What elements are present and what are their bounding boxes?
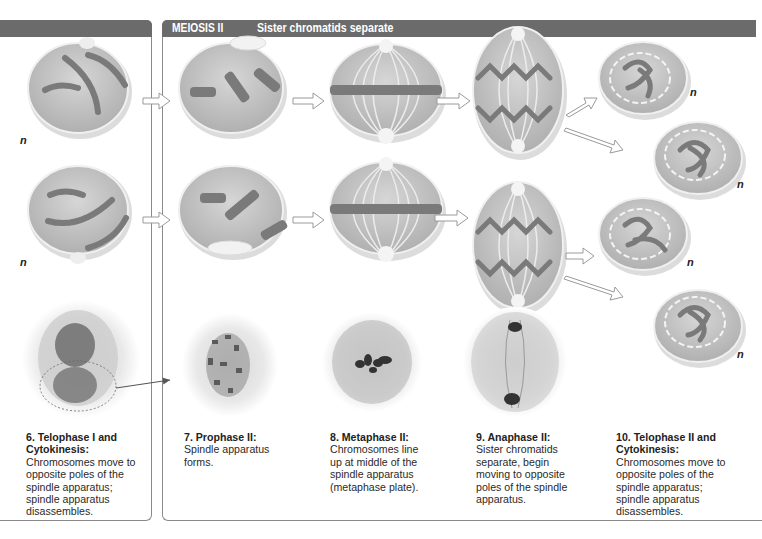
stage-caption-7: 7. Prophase II: Spindle apparatus forms. (184, 431, 284, 468)
arrow-icon (564, 128, 623, 153)
anaphase-ii-cell-top (473, 27, 567, 160)
stage-title: 6. Telophase I and Cytokinesis: (26, 431, 146, 456)
daughter-cell-1 (599, 42, 691, 120)
arrow-icon (143, 93, 170, 109)
stage-title: 8. Metaphase II: (330, 431, 430, 443)
arrow-icon (293, 93, 324, 109)
arrow-icon (143, 212, 170, 228)
stage-title: 7. Prophase II: (184, 431, 284, 443)
stage-description: Spindle apparatus forms. (184, 443, 269, 467)
micrograph-telophase-i (22, 300, 140, 418)
ploidy-label: n (20, 256, 27, 268)
micrograph-anaphase-ii (463, 307, 567, 417)
prophase-ii-cell-bottom (179, 166, 289, 260)
ploidy-label: n (20, 134, 27, 146)
ploidy-label: n (737, 348, 744, 360)
stage-description: Chromosomes line up at middle of the spi… (330, 443, 418, 492)
ploidy-label: n (737, 178, 744, 190)
ploidy-label: n (687, 256, 694, 268)
stage-title: 10. Telophase II and Cytokinesis: (616, 431, 736, 456)
stage-title: 9. Anaphase II: (476, 431, 580, 443)
stage-caption-9: 9. Anaphase II: Sister chromatids separa… (476, 431, 580, 505)
arrow-icon (566, 248, 594, 264)
stage-caption-10: 10. Telophase II and Cytokinesis: Chromo… (616, 431, 736, 518)
stage-caption-6: 6. Telophase I and Cytokinesis: Chromoso… (26, 431, 146, 518)
stage-description: Chromosomes move to opposite poles of th… (616, 456, 726, 518)
anaphase-ii-cell-bottom (473, 182, 567, 315)
prophase-ii-cell-top (179, 36, 287, 139)
metaphase-ii-cell-top (330, 39, 446, 144)
daughter-cell-2 (654, 122, 746, 200)
daughter-cell-3 (599, 198, 691, 276)
ploidy-label: n (690, 86, 697, 98)
arrow-icon (564, 276, 623, 300)
stage-caption-8: 8. Metaphase II: Chromosomes line up at … (330, 431, 430, 493)
telophase-i-cell-bottom (28, 166, 132, 264)
telophase-i-cell-top (28, 37, 132, 139)
arrow-icon (293, 212, 324, 228)
stage-description: Chromosomes move to opposite poles of th… (26, 456, 136, 518)
stage-description: Sister chromatids separate, begin moving… (476, 443, 567, 505)
arrow-icon (566, 98, 597, 117)
daughter-cell-4 (654, 290, 746, 368)
metaphase-ii-cell-bottom (330, 157, 446, 262)
micrograph-prophase-ii (182, 313, 278, 417)
micrograph-metaphase-ii (322, 312, 422, 412)
